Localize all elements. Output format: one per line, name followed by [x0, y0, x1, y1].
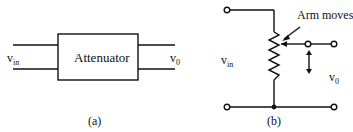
junction-dot	[272, 105, 277, 110]
input-terminal-bottom	[224, 104, 230, 110]
output-voltage-label-b: v0	[329, 71, 339, 86]
caption-a: (a)	[88, 115, 101, 127]
arrow-down-icon	[306, 69, 312, 74]
caption-b: (b)	[267, 115, 281, 127]
input-voltage-label-a: vin	[7, 52, 19, 67]
wiper-arrowhead-icon	[281, 41, 287, 47]
arrow-up-icon	[306, 50, 312, 55]
input-voltage-label-b: vin	[221, 54, 233, 69]
potentiometer-resistor	[269, 32, 279, 80]
output-terminal-top	[331, 41, 337, 47]
wiper-terminal	[305, 41, 311, 47]
output-voltage-label-a: v0	[170, 52, 180, 67]
input-terminal-top	[224, 7, 230, 13]
output-terminal-bottom	[331, 104, 337, 110]
arm-moves-annotation: Arm moves	[297, 9, 353, 21]
attenuator-label: Attenuator	[74, 51, 130, 64]
